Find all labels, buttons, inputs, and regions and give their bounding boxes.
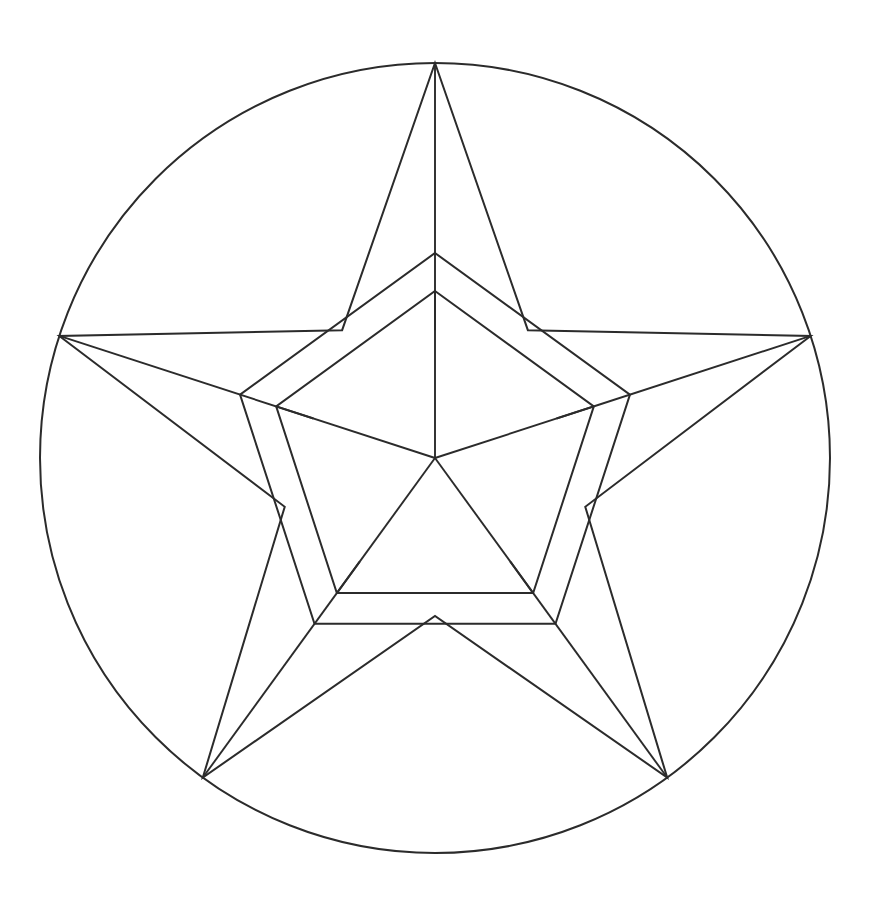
canvas-background [0,0,875,906]
geometric-figure [0,0,875,906]
diagram-canvas [0,0,875,906]
